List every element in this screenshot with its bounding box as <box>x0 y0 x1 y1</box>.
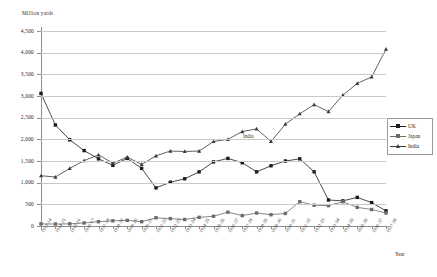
data-point <box>154 186 157 189</box>
data-point <box>126 219 129 222</box>
data-point <box>97 220 100 223</box>
chart-legend: UKJapanIndia <box>387 118 433 155</box>
gridline <box>41 161 386 162</box>
legend-item-uk[interactable]: UK <box>390 122 430 132</box>
data-point <box>97 153 101 157</box>
y-axis-tick-label: 2,500 <box>1 114 34 120</box>
data-point <box>356 206 359 209</box>
data-point <box>226 210 229 213</box>
y-axis-tick-label: 4,000 <box>1 49 34 55</box>
data-point <box>82 221 85 224</box>
legend-label: Japan <box>408 134 420 139</box>
data-point <box>183 177 186 180</box>
y-axis-tick <box>37 183 41 184</box>
data-point <box>197 216 200 219</box>
gridline <box>41 96 386 97</box>
data-point <box>197 170 200 173</box>
legend-item-japan[interactable]: Japan <box>390 132 430 142</box>
gridline <box>41 118 386 119</box>
data-point <box>298 112 302 116</box>
y-axis-unit-label: Million yards <box>22 10 53 16</box>
legend-label: India <box>408 144 419 149</box>
y-axis-tick <box>37 96 41 97</box>
data-point <box>384 211 387 214</box>
data-point <box>82 149 85 152</box>
y-axis-tick <box>37 161 41 162</box>
data-point <box>269 164 272 167</box>
x-axis-tick-label: 1937-38 <box>385 217 398 233</box>
data-point <box>312 103 316 107</box>
y-axis-tick-label: 500 <box>1 201 34 207</box>
gridline <box>41 31 386 32</box>
data-point <box>269 213 272 216</box>
data-point <box>226 157 229 160</box>
data-point <box>140 167 143 170</box>
y-axis-tick <box>37 118 41 119</box>
data-point <box>298 200 301 203</box>
data-point <box>370 208 373 211</box>
data-point <box>140 162 144 166</box>
plot-area <box>41 31 386 226</box>
x-axis-title: Year <box>395 251 405 257</box>
legend-marker-icon <box>390 123 406 131</box>
data-point <box>312 170 315 173</box>
y-axis-tick <box>37 204 41 205</box>
series-line-uk <box>41 93 386 210</box>
data-point <box>255 127 259 131</box>
gridline <box>41 139 386 140</box>
legend-marker-icon <box>390 143 406 151</box>
data-point <box>140 220 143 223</box>
data-point <box>241 214 244 217</box>
data-point <box>341 200 344 203</box>
y-axis-tick <box>37 139 41 140</box>
gridline <box>41 53 386 54</box>
data-point <box>255 170 258 173</box>
y-axis-tick-label: 1,000 <box>1 179 34 185</box>
data-point <box>283 122 287 126</box>
data-point <box>327 198 330 201</box>
chart-container: Million yards Year UKJapanIndia 05001,00… <box>0 0 437 277</box>
data-point <box>39 92 42 95</box>
gridline <box>41 204 386 205</box>
data-point <box>212 215 215 218</box>
data-point <box>68 166 72 170</box>
y-axis-tick <box>37 53 41 54</box>
data-point <box>370 75 374 79</box>
y-axis-tick-label: 1,500 <box>1 158 34 164</box>
data-point <box>154 216 157 219</box>
legend-marker-icon <box>390 133 406 141</box>
series-layer <box>41 31 386 226</box>
gridline <box>41 183 386 184</box>
legend-label: UK <box>408 124 416 129</box>
gridline <box>41 74 386 75</box>
data-point <box>111 219 114 222</box>
y-axis-tick-label: 4,500 <box>1 28 34 34</box>
y-axis-tick-label: 0 <box>1 223 34 229</box>
data-point <box>284 212 287 215</box>
y-axis-tick <box>37 31 41 32</box>
annotation-label: India <box>243 133 254 139</box>
data-point <box>384 47 388 51</box>
data-point <box>356 196 359 199</box>
y-axis-tick-label: 3,500 <box>1 71 34 77</box>
data-point <box>255 211 258 214</box>
data-point <box>54 123 57 126</box>
series-line-india <box>41 49 386 177</box>
data-point <box>183 218 186 221</box>
y-axis-tick-label: 3,000 <box>1 93 34 99</box>
y-axis-tick-label: 2,000 <box>1 136 34 142</box>
legend-item-india[interactable]: India <box>390 142 430 152</box>
data-point <box>169 217 172 220</box>
y-axis-tick <box>37 74 41 75</box>
